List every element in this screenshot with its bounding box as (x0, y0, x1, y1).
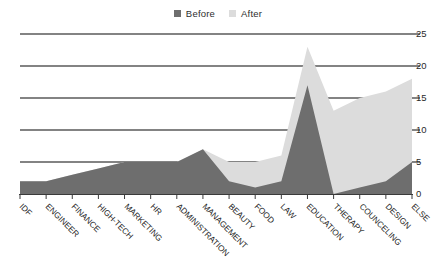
y-axis-tick-label: 15 (416, 93, 427, 103)
y-axis-tick-label: 20 (416, 61, 427, 71)
plot-svg (0, 0, 436, 278)
y-axis-tick-label: 25 (416, 29, 427, 39)
area-chart: Before After 0510152025 IDFENGINEERFINAN… (0, 0, 436, 278)
y-axis-tick-label: 5 (416, 157, 421, 167)
y-axis-tick-label: 0 (416, 189, 421, 199)
x-axis (19, 194, 413, 199)
plot-area (0, 0, 436, 278)
y-axis-tick-label: 10 (416, 125, 427, 135)
